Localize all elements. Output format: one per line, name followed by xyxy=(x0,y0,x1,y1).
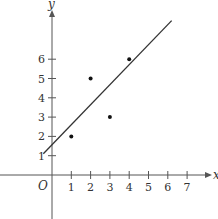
x-axis-label: x xyxy=(213,168,218,182)
origin-label: O xyxy=(38,179,48,193)
y-axis-label: y xyxy=(47,0,55,11)
y-tick-label: 1 xyxy=(38,150,45,163)
data-point xyxy=(108,115,112,119)
y-tick-label: 4 xyxy=(38,92,45,105)
y-tick-label: 2 xyxy=(38,130,45,143)
x-tick-label: 3 xyxy=(106,181,113,194)
scatter-plot: xyO1234567123456 xyxy=(0,0,218,219)
data-point xyxy=(69,134,73,138)
y-tick-label: 6 xyxy=(38,53,45,66)
regression-line xyxy=(43,21,171,154)
y-axis-arrow-icon xyxy=(49,10,55,17)
data-point xyxy=(127,57,131,61)
x-tick-label: 2 xyxy=(87,181,94,194)
x-tick-label: 6 xyxy=(164,181,171,194)
x-tick-label: 1 xyxy=(68,181,75,194)
data-point xyxy=(89,77,93,81)
x-axis-arrow-icon xyxy=(205,172,212,178)
x-tick-label: 7 xyxy=(184,181,191,194)
x-tick-label: 4 xyxy=(126,181,133,194)
y-tick-label: 5 xyxy=(38,73,45,86)
y-tick-label: 3 xyxy=(38,111,45,124)
x-tick-label: 5 xyxy=(145,181,152,194)
